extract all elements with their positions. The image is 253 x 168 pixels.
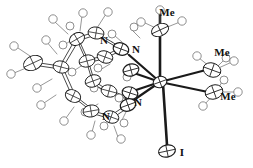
label-methyl-top: Me [159,6,174,18]
label-nitrogen-lower-left: N [102,110,110,122]
label-nitrogen-upper-left: N [100,34,108,46]
label-methyl-right-lower: Me [220,90,235,102]
label-iodine: I [180,146,184,158]
ortep-figure-canvas: N N N N Me Me Me I [0,0,253,168]
crystal-structure-svg: N N N N Me Me Me I [0,0,253,168]
label-nitrogen-upper-right: N [132,43,140,55]
label-nitrogen-lower-right: N [134,96,142,108]
label-methyl-right-upper: Me [214,46,229,58]
